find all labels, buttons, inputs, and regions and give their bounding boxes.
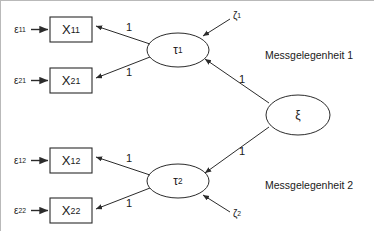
loading-arrow-tau1-x21 bbox=[96, 57, 150, 78]
path-diagram-canvas: X11 X21 X12 X22 τ1 τ2 ξ ε11 ε21 ε12 ε22 … bbox=[0, 0, 374, 231]
disturbance-arrow-zeta2 bbox=[203, 195, 230, 212]
latent-ellipse-xi bbox=[266, 95, 330, 135]
structural-arrow-xi-tau1 bbox=[205, 59, 269, 103]
loading-arrow-tau1-x11 bbox=[96, 26, 150, 44]
structural-arrow-xi-tau2 bbox=[205, 127, 269, 173]
latent-ellipse-tau1 bbox=[147, 33, 209, 67]
diagram-vector-layer bbox=[0, 0, 374, 231]
loading-arrow-tau2-x12 bbox=[96, 157, 150, 175]
latent-ellipse-tau2 bbox=[147, 164, 209, 198]
observed-box-x11 bbox=[50, 17, 92, 42]
observed-box-x12 bbox=[50, 148, 92, 173]
observed-box-x21 bbox=[50, 68, 92, 93]
observed-box-x22 bbox=[50, 198, 92, 223]
loading-arrow-tau2-x22 bbox=[96, 188, 150, 209]
disturbance-arrow-zeta1 bbox=[203, 19, 230, 36]
